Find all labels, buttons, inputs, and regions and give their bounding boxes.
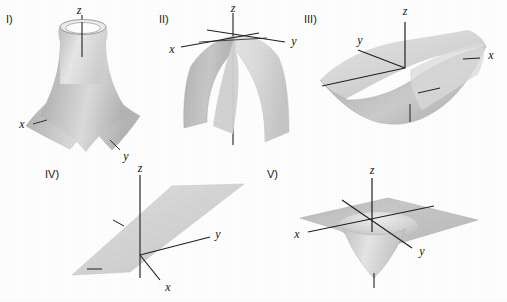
saddle-surface-plot: z y x [300,0,507,170]
panel-II-z-label: z [230,1,236,15]
panel-V-z-label: z [369,163,375,177]
panel-IV-plane-tick-upper [113,220,124,226]
panel-IV-z-label: z [137,161,143,175]
panel-I-x-label: x [18,117,25,131]
panel-IV-y-label: y [214,227,221,241]
panel-III-z-label: z [402,4,408,18]
panel-label-V: V) [267,168,278,180]
panel-IV: IV) z y x [30,160,260,302]
panel-V: V) [260,160,507,302]
panel-label-IV: IV) [45,168,59,180]
panel-IV-x-axis [140,255,160,280]
panel-III: III) [300,0,507,170]
funnel-surface-plot: z x y [0,0,170,170]
panel-IV-x-label: x [164,280,171,294]
panel-label-II: II) [159,13,169,25]
tilted-plane-surface-plot: z y x [30,160,260,302]
panel-V-x-label: x [293,227,300,241]
panel-label-III: III) [304,13,317,25]
panel-V-y-label: y [418,244,425,258]
panel-III-x-label: x [487,48,494,62]
panel-II-x-label: x [168,42,175,56]
panel-II-right-sheet [235,36,289,142]
panel-I-z-label: z [76,3,82,17]
panel-II: II) [155,0,315,170]
panel-I-rim-inner [66,23,101,34]
parabolic-cylinder-surface-plot: z x y [155,0,315,170]
downward-cone-surface-plot: z x y [260,160,507,302]
surface-gallery-figure: I) [0,0,507,302]
panel-III-y-label: y [356,33,363,47]
panel-I: I) [0,0,170,170]
panel-label-I: I) [6,13,13,25]
panel-V-cone [343,228,406,278]
panel-II-y-label: y [290,34,297,48]
